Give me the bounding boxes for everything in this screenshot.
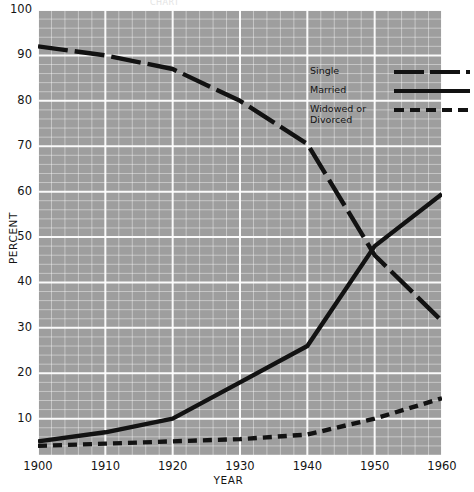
legend-item-married: Married	[310, 85, 474, 104]
legend-label-widowed-divorced: Widowed or Divorced	[310, 104, 366, 125]
legend-swatch-married-icon	[394, 89, 470, 93]
y-tick-label: 90	[0, 49, 32, 61]
legend-swatch-single-icon	[394, 70, 470, 74]
y-axis-label: PERCENT	[7, 203, 19, 273]
series-line-married	[38, 194, 442, 441]
chart-title-fragment: CHART	[150, 0, 240, 6]
x-tick-label: 1910	[80, 461, 130, 473]
y-tick-label: 100	[0, 4, 32, 16]
y-tick-label: 70	[0, 140, 32, 152]
y-tick-label: 80	[0, 95, 32, 107]
y-tick-label: 20	[0, 367, 32, 379]
legend-item-single: Single	[310, 66, 474, 85]
legend-swatch-widowed-divorced-icon	[394, 108, 470, 112]
y-tick-label: 10	[0, 413, 32, 425]
y-tick-label: 60	[0, 186, 32, 198]
x-tick-label: 1950	[350, 461, 400, 473]
legend: Single Married Widowed or Divorced	[310, 66, 474, 123]
legend-label-single: Single	[310, 66, 339, 77]
plot-area: Single Married Widowed or Divorced	[38, 10, 442, 455]
legend-label-married: Married	[310, 85, 346, 96]
x-tick-label: 1900	[13, 461, 63, 473]
series-line-widowed-or-divorced	[38, 398, 442, 446]
y-tick-label: 40	[0, 276, 32, 288]
legend-item-widowed-divorced: Widowed or Divorced	[310, 104, 474, 123]
x-tick-label: 1920	[148, 461, 198, 473]
x-tick-label: 1930	[215, 461, 265, 473]
y-tick-label: 30	[0, 322, 32, 334]
x-tick-label: 1940	[282, 461, 332, 473]
x-axis-label: YEAR	[0, 474, 457, 486]
x-tick-label: 1960	[417, 461, 467, 473]
